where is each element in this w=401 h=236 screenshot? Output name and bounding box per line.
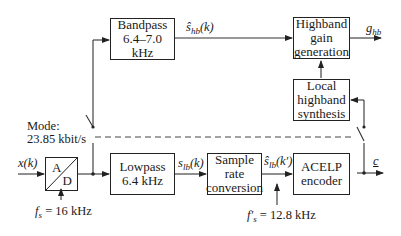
sampling-rate-16khz-label: fs = 16 kHz [35,205,92,222]
bandpass-title: Bandpass [118,18,168,32]
ad-label-a: A [52,161,61,175]
input-signal-label: x(k) [18,157,37,170]
slb2-sub: lb [269,160,276,170]
lowband-signal-label: slb(k) [178,157,204,174]
lowpass-cutoff: 6.4 kHz [122,174,163,188]
local-synth-line2: highband [297,93,345,107]
ghb-sub: hb [372,27,381,37]
sampling-rate-12-8khz-label: f′s = 12.8 kHz [247,209,316,226]
highband-gain-line3: generation [294,45,349,59]
local-synth-line1: Local [307,79,337,93]
local-synth-line3: synthesis [298,107,346,121]
sample-rate-conversion-block: Sample rate conversion [207,153,262,195]
acelp-subtitle: encoder [301,174,342,188]
lowpass-title: Lowpass [119,160,165,174]
bandpass-range: 6.4–7.0 kHz [111,32,174,60]
shb-sub: hb [191,26,200,36]
highband-gain-label: ghb [366,22,381,39]
resampled-signal-label: ŝlb(k′) [264,155,293,172]
src-line3: conversion [206,181,263,195]
output-bitstream-label: c [373,155,379,168]
lowpass-filter-block: Lowpass 6.4 kHz [110,153,175,195]
ad-converter-block: A D [45,157,78,191]
local-highband-synthesis-block: Local highband synthesis [293,79,350,121]
shb-arg: (k) [200,20,214,34]
highband-gain-generation-block: Highband gain generation [293,17,350,59]
mode-label-line2: 23.85 kbit/s [27,133,86,146]
slb-arg: (k) [190,156,204,170]
highband-gain-line2: gain [310,31,332,45]
slb2-arg: (k′) [276,154,293,168]
src-line2: rate [225,167,244,181]
acelp-encoder-block: ACELP encoder [293,153,350,195]
slb-sub: lb [183,162,190,172]
mode-label: Mode: 23.85 kbit/s [27,120,86,146]
fs2-value: = 12.8 kHz [257,208,316,222]
bandpass-filter-block: Bandpass 6.4–7.0 kHz [110,18,175,60]
highband-signal-label: ŝhb(k) [186,21,214,38]
src-line1: Sample [215,153,254,167]
highband-gain-line1: Highband [296,17,347,31]
ad-label-d: D [63,174,72,188]
fs-value: = 16 kHz [42,204,92,218]
acelp-title: ACELP [301,160,342,174]
